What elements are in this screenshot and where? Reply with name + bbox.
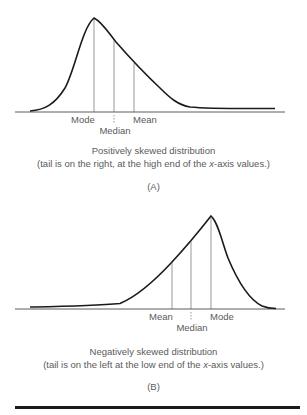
bottom-rule xyxy=(15,406,300,409)
panel-b-graphics xyxy=(15,216,285,321)
panel-b-mode-label: Mode xyxy=(210,311,234,322)
panel-a-median-label: Median xyxy=(99,125,130,136)
panel-b-subtitle-before: (tail is on the left at the low end of t… xyxy=(43,359,203,370)
panel-b-mean-label: Mean xyxy=(149,311,173,322)
panel-a-subtitle: (tail is on the right, at the high end o… xyxy=(0,158,307,169)
panel-a-mean-label: Mean xyxy=(133,114,157,125)
panel-b-title: Negatively skewed distribution xyxy=(0,346,307,357)
panel-a-graphics xyxy=(15,18,285,124)
panel-b-median-label: Median xyxy=(176,322,207,333)
panel-a-mode-label: Mode xyxy=(71,114,95,125)
panel-b-id: (B) xyxy=(0,381,307,392)
panel-b-subtitle-after: -axis values.) xyxy=(208,359,264,370)
panel-b-subtitle: (tail is on the left at the low end of t… xyxy=(0,359,307,370)
panel-a-id: (A) xyxy=(0,181,307,192)
panel-a-subtitle-before: (tail is on the right, at the high end o… xyxy=(37,158,209,169)
panel-a-subtitle-after: -axis values.) xyxy=(214,158,270,169)
panel-b-distribution-curve xyxy=(30,216,276,309)
panel-a-title: Positively skewed distribution xyxy=(0,145,307,156)
panel-a-distribution-curve xyxy=(30,18,275,111)
